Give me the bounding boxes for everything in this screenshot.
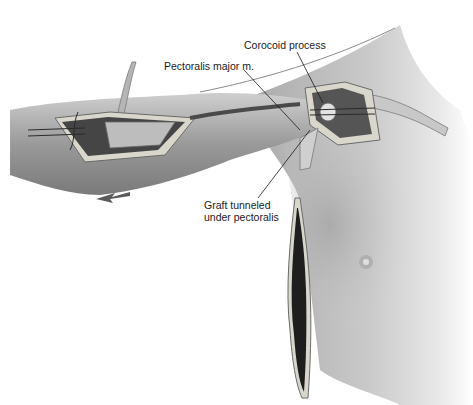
label-graft-tunneled-line2: under pectoralis: [204, 211, 279, 223]
label-graft-tunneled-line1: Graft tunneled: [204, 199, 271, 211]
label-pectoralis-major: Pectoralis major m.: [164, 60, 254, 72]
label-corocoid-process: Corocoid process: [244, 39, 326, 51]
nipple: [359, 255, 373, 269]
illustration-canvas: Corocoid process Pectoralis major m. Gra…: [0, 0, 473, 405]
